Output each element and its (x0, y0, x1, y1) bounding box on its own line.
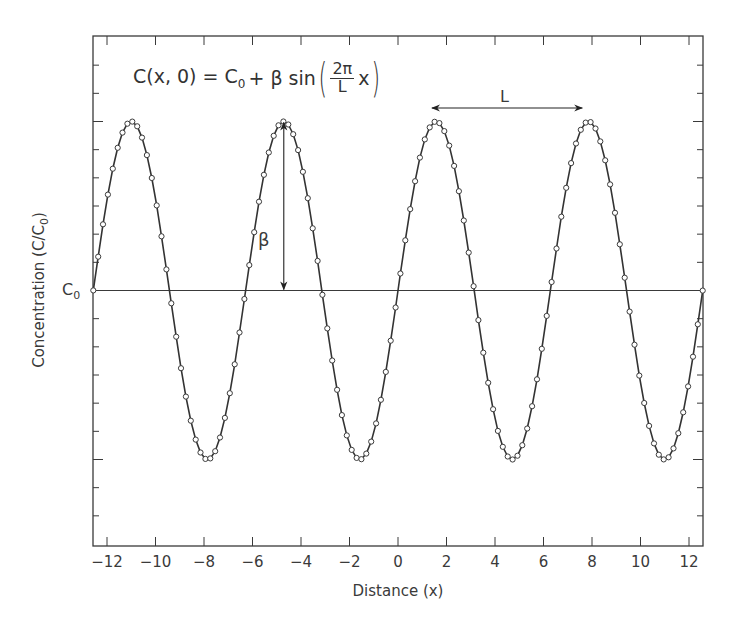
x-tick-label: −12 (91, 553, 123, 571)
fraction-denominator: L (338, 79, 347, 96)
c0-label: C0 (62, 280, 80, 302)
formula-lhs: C(x, 0) = C0 (133, 65, 245, 91)
beta-label: β (258, 229, 270, 250)
x-tick-label: 8 (587, 553, 597, 571)
x-tick-label: 10 (631, 553, 650, 571)
x-tick-label: 0 (393, 553, 403, 571)
x-tick-label: −8 (193, 553, 215, 571)
right-paren: ) (372, 58, 381, 98)
left-paren: ( (318, 58, 327, 98)
x-axis-label: Distance (x) (353, 582, 444, 600)
formula-var: x (358, 67, 369, 89)
x-tick-label: −10 (140, 553, 172, 571)
wavelength-label: L (500, 87, 509, 106)
formula-mid: + β sin (248, 67, 315, 89)
x-tick-label: 12 (679, 553, 698, 571)
x-tick-label: −4 (290, 553, 312, 571)
y-axis-label: Concentration (C/C0) (30, 212, 51, 368)
fraction: 2π L (330, 61, 354, 96)
x-tick-label: −6 (241, 553, 263, 571)
x-tick-label: 4 (490, 553, 500, 571)
formula: C(x, 0) = C0 + β sin ( 2π L x ) (133, 58, 380, 98)
x-tick-label: 6 (539, 553, 549, 571)
annotations (284, 108, 583, 290)
x-tick-label: −2 (338, 553, 360, 571)
x-tick-label: 2 (442, 553, 452, 571)
fraction-numerator: 2π (330, 61, 354, 79)
